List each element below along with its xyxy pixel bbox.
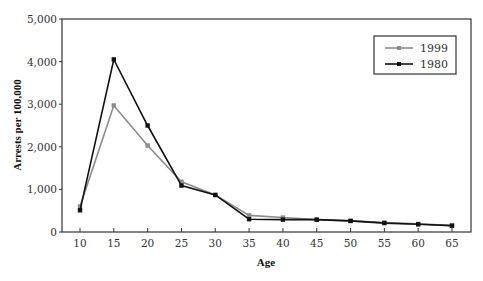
data-point-1980 [281, 217, 285, 221]
data-point-1980 [315, 217, 319, 221]
data-point-1980 [382, 221, 386, 225]
legend: 1999 1980 [374, 36, 456, 74]
x-tick-label: 10 [73, 237, 86, 249]
y-tick-label: 4,000 [27, 56, 57, 68]
y-axis-title-group: Arrests per 100,000 [11, 79, 23, 171]
y-tick-label: 0 [50, 226, 57, 238]
x-tick-label: 50 [344, 237, 357, 249]
data-point-1980 [247, 217, 251, 221]
legend-label-1980: 1980 [420, 58, 448, 71]
x-tick-label: 25 [175, 237, 188, 249]
data-point-1980 [78, 208, 82, 212]
y-tick-label: 3,000 [27, 98, 57, 110]
data-point-1999 [145, 143, 149, 147]
x-tick-label: 15 [107, 237, 120, 249]
x-tick-label: 20 [141, 237, 154, 249]
data-point-1980 [450, 223, 454, 227]
series-1980 [78, 57, 454, 228]
x-axis-ticks: 101520253035404550556065 [73, 228, 458, 249]
y-tick-label: 2,000 [27, 141, 57, 153]
series-layer [78, 57, 454, 228]
y-axis-ticks: 01,0002,0003,0004,0005,000 [27, 13, 62, 238]
data-point-1980 [416, 222, 420, 226]
legend-marker-1980 [397, 62, 401, 66]
x-axis-title: Age [257, 256, 275, 268]
data-point-1999 [247, 213, 251, 217]
series-1999 [78, 103, 454, 228]
series-line-1999 [80, 106, 452, 226]
y-axis-title: Arrests per 100,000 [11, 79, 23, 171]
x-tick-label: 35 [242, 237, 255, 249]
data-point-1980 [213, 193, 217, 197]
data-point-1999 [112, 103, 116, 107]
legend-label-1999: 1999 [420, 42, 448, 55]
line-chart: Arrests per 100,000 Age 01,0002,0003,000… [0, 0, 483, 281]
x-tick-label: 65 [445, 237, 458, 249]
x-tick-label: 55 [378, 237, 391, 249]
x-tick-label: 60 [411, 237, 424, 249]
y-tick-label: 1,000 [27, 183, 57, 195]
legend-marker-1999 [397, 46, 401, 50]
x-tick-label: 40 [276, 237, 289, 249]
data-point-1980 [145, 123, 149, 127]
series-line-1980 [80, 60, 452, 226]
data-point-1980 [348, 219, 352, 223]
data-point-1980 [179, 183, 183, 187]
data-point-1980 [112, 57, 116, 61]
y-tick-label: 5,000 [27, 13, 57, 25]
x-tick-label: 30 [209, 237, 222, 249]
x-tick-label: 45 [310, 237, 323, 249]
